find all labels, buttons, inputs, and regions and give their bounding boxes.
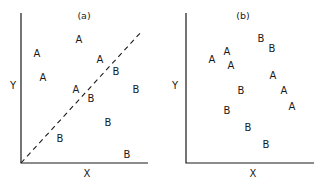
point-b: B	[57, 133, 64, 144]
point-b: B	[88, 93, 95, 104]
point-a: A	[281, 85, 288, 96]
panel-a-x-label: X	[84, 168, 91, 179]
point-b: B	[224, 105, 231, 116]
panel-a-title: (a)	[77, 10, 90, 21]
point-b: B	[258, 33, 265, 44]
point-b: B	[113, 66, 120, 77]
panel-a-y-label: Y	[9, 80, 17, 91]
point-b: B	[269, 43, 276, 54]
point-a: A	[40, 72, 47, 83]
point-b: B	[124, 149, 131, 160]
scatter-diagram: (a) X Y AAAAABBBBBB (b) X Y AAAAAABBBBBB	[0, 0, 322, 189]
panel-b-title: (b)	[236, 10, 249, 21]
panel-b-x-label: X	[250, 168, 257, 179]
panel-b-axes	[186, 13, 314, 163]
point-a: A	[224, 46, 231, 57]
point-b: B	[238, 85, 245, 96]
point-a: A	[228, 60, 235, 71]
point-b: B	[245, 122, 252, 133]
panel-b-y-label: Y	[171, 80, 179, 91]
point-a: A	[270, 70, 277, 81]
point-a: A	[97, 54, 104, 65]
panel-a-points: AAAAABBBBBB	[34, 34, 140, 160]
point-a: A	[209, 54, 216, 65]
point-b: B	[105, 117, 112, 128]
point-b: B	[133, 84, 140, 95]
point-a: A	[289, 101, 296, 112]
point-a: A	[34, 48, 41, 59]
point-a: A	[76, 34, 83, 45]
point-b: B	[263, 139, 270, 150]
panel-a-axes	[21, 13, 148, 163]
panel-b-points: AAAAAABBBBBB	[209, 33, 296, 150]
panel-b: (b) X Y AAAAAABBBBBB	[171, 10, 314, 179]
point-a: A	[73, 84, 80, 95]
panel-a: (a) X Y AAAAABBBBBB	[9, 10, 148, 179]
